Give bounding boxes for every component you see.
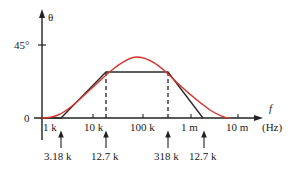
- y-axis-label: θ: [48, 11, 53, 23]
- y-tick-0: 0: [24, 112, 30, 124]
- frequency-arrows: [59, 132, 206, 148]
- marker-3-18k: 3.18 k: [44, 150, 72, 162]
- x-axis-unit: (Hz): [262, 121, 282, 134]
- y-tick-45: 45°: [14, 39, 29, 51]
- marker-318k: 318 k: [154, 150, 179, 162]
- x-tick-1k: 1 k: [43, 121, 57, 133]
- y-axis-arrow-icon: [39, 9, 45, 18]
- marker-12-7k-high: 12.7 k: [189, 150, 217, 162]
- x-tick-10m: 10 m: [226, 121, 249, 133]
- x-axis-label: f: [269, 102, 274, 114]
- x-tick-10k: 10 k: [84, 121, 104, 133]
- x-tick-1m: 1 m: [181, 121, 198, 133]
- marker-12-7k: 12.7 k: [91, 150, 119, 162]
- phase-plot: θ 45° 0 f (Hz) 1 k 10 k 100 k 1 m 10 m 3…: [0, 0, 298, 170]
- x-tick-100k: 100 k: [130, 121, 155, 133]
- break-frequency-markers: [106, 72, 168, 118]
